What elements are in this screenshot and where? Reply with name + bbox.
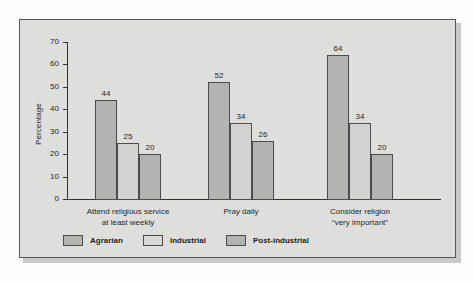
y-tick-label-60: 60 xyxy=(41,60,59,68)
bar-agrarian-group-2[interactable] xyxy=(208,82,230,200)
y-tick-label-40: 40 xyxy=(41,105,59,113)
bar-value-label: 20 xyxy=(131,143,169,152)
figure: 010203040506070Percentage442520Attend re… xyxy=(0,0,474,281)
category-label-line: “very important” xyxy=(285,218,435,229)
bar-value-label: 52 xyxy=(200,71,238,80)
bar-value-label: 26 xyxy=(244,130,282,139)
y-tick-10 xyxy=(63,177,67,178)
category-label-line: Consider religion xyxy=(285,207,435,218)
y-tick-label-50: 50 xyxy=(41,83,59,91)
legend-label-industrial: Industrial xyxy=(170,236,206,245)
bar-post-industrial-group-3[interactable] xyxy=(371,154,393,200)
bar-value-label: 44 xyxy=(87,89,125,98)
legend-item-agrarian[interactable]: Agrarian xyxy=(63,235,123,246)
category-label-line: at least weekly xyxy=(53,218,203,229)
bar-value-label: 34 xyxy=(222,112,260,121)
y-tick-0 xyxy=(63,199,67,200)
bar-agrarian-group-1[interactable] xyxy=(95,100,117,200)
y-tick-30 xyxy=(63,132,67,133)
y-tick-50 xyxy=(63,87,67,88)
bar-post-industrial-group-2[interactable] xyxy=(252,141,274,200)
bar-value-label: 20 xyxy=(363,143,401,152)
legend-swatch-post-industrial xyxy=(226,235,246,246)
y-tick-label-70: 70 xyxy=(41,38,59,46)
category-label-3: Consider religion“very important” xyxy=(285,207,435,228)
plot-area: 010203040506070Percentage442520Attend re… xyxy=(20,20,457,259)
chart-legend: Agrarian Industrial Post-industrial xyxy=(63,232,329,248)
legend-label-post-industrial: Post-industrial xyxy=(253,236,309,245)
bar-value-label: 25 xyxy=(109,132,147,141)
y-tick-label-20: 20 xyxy=(41,150,59,158)
bar-value-label: 34 xyxy=(341,112,379,121)
y-axis-label: Percentage xyxy=(34,103,43,145)
legend-swatch-agrarian xyxy=(63,235,83,246)
y-tick-label-0: 0 xyxy=(41,195,59,203)
bar-post-industrial-group-1[interactable] xyxy=(139,154,161,200)
y-tick-60 xyxy=(63,64,67,65)
y-tick-20 xyxy=(63,154,67,155)
y-tick-40 xyxy=(63,109,67,110)
bar-agrarian-group-3[interactable] xyxy=(327,55,349,200)
bar-industrial-group-3[interactable] xyxy=(349,123,371,200)
y-tick-label-10: 10 xyxy=(41,173,59,181)
chart-panel: 010203040506070Percentage442520Attend re… xyxy=(19,19,456,258)
y-tick-70 xyxy=(63,42,67,43)
bar-value-label: 64 xyxy=(319,44,357,53)
legend-item-post-industrial[interactable]: Post-industrial xyxy=(226,235,309,246)
y-tick-label-30: 30 xyxy=(41,128,59,136)
legend-swatch-industrial xyxy=(143,235,163,246)
legend-label-agrarian: Agrarian xyxy=(90,236,123,245)
y-axis-line xyxy=(67,42,68,200)
legend-item-industrial[interactable]: Industrial xyxy=(143,235,206,246)
